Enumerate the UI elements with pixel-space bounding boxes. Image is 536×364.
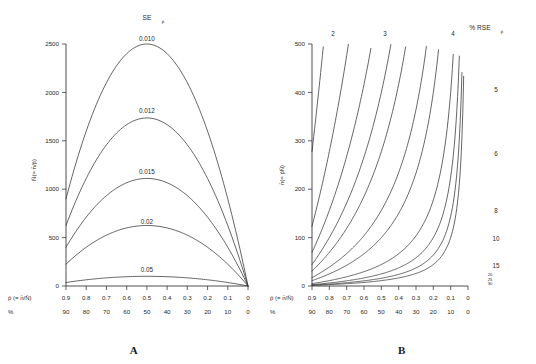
panel-a-xtick-8: 0.1 [223, 294, 232, 301]
panel-a-xtick-0: 0.9 [62, 294, 71, 301]
panel-b-xtickpct-6: 30 [413, 308, 420, 315]
figure-two-panel: SE p̄ 0 500 1000 1500 2000 2500 [0, 0, 536, 364]
panel-a-xtick-7: 0.2 [203, 294, 212, 301]
panel-b-line-label-8: 8 [494, 207, 498, 214]
panel-a-legend-title-sub: p̄ [162, 19, 165, 24]
panel-b-xtickpct-9: 0 [466, 308, 470, 315]
panel-a-ytick-1500: 1500 [45, 137, 59, 144]
panel-a-x-axis-title-pct: % [8, 309, 14, 315]
panel-a-curve-label-0: 0.010 [139, 35, 155, 42]
panel-a-xtick-6: 0.3 [183, 294, 192, 301]
panel-a-curve-0.012 [66, 118, 248, 286]
panel-a-xtick-1: 0.8 [82, 294, 91, 301]
panel-b-xtick-5: 0.4 [394, 294, 403, 301]
panel-a-xtickpct-2: 70 [103, 308, 110, 315]
panel-a-xtick-2: 0.7 [102, 294, 111, 301]
panel-b-ray-15 [312, 54, 453, 283]
panel-a-ytick-0: 0 [56, 282, 60, 289]
panel-b-xtick-3: 0.6 [360, 294, 369, 301]
panel-b-plot: % RSE p̄ 0 100 200 300 400 500 n̄(= p̄N̄… [268, 0, 536, 330]
panel-a-xtickpct-4: 50 [143, 308, 150, 315]
panel-b-ytick-300: 300 [295, 137, 306, 144]
panel-b-xtick-1: 0.8 [325, 294, 334, 301]
panel-b-line-label-3: 3 [383, 30, 387, 37]
panel-b-xtick-7: 0.2 [429, 294, 438, 301]
panel-a-curve-0.015 [66, 178, 248, 286]
panel-a-curves [66, 44, 248, 286]
panel-a-curve-label-3: 0.02 [141, 218, 154, 225]
panel-b-line-label-2: 2 [331, 30, 335, 37]
panel-b-rays [312, 44, 464, 285]
panel-b-line-label-5: 5 [494, 86, 498, 93]
panel-a-xtickpct-1: 80 [83, 308, 90, 315]
panel-a-xtickpct-9: 0 [246, 308, 250, 315]
panel-b-ray-4 [312, 48, 371, 252]
panel-b-xtickpct-2: 70 [343, 308, 350, 315]
panel-b-xtickpct-5: 40 [395, 308, 402, 315]
panel-a-ytick-2500: 2500 [45, 40, 59, 47]
panel-b-ray-8 [312, 47, 426, 278]
panel-a-curve-0.05 [66, 276, 248, 286]
panel-b-ray-30 [312, 76, 464, 285]
panel-b: % RSE p̄ 0 100 200 300 400 500 n̄(= p̄N̄… [268, 0, 536, 364]
panel-b-line-label-10: 10 [492, 235, 500, 242]
panel-a-xtick-3: 0.6 [122, 294, 131, 301]
panel-a: SE p̄ 0 500 1000 1500 2000 2500 [0, 0, 268, 364]
panel-a-xtick-5: 0.4 [163, 294, 172, 301]
panel-b-legend-title: % RSE [469, 24, 491, 31]
panel-a-plot: SE p̄ 0 500 1000 1500 2000 2500 [0, 0, 268, 330]
panel-b-ytick-200: 200 [295, 185, 306, 192]
panel-b-x-ticks: 0.9 0.8 0.7 0.6 0.5 0.4 0.3 0.2 0.1 0 90… [308, 286, 471, 315]
panel-a-xtickpct-3: 60 [123, 308, 130, 315]
panel-b-line-labels: 2 3 4 5 6 8 10 15 20 25 30 [331, 30, 500, 286]
panel-a-x-axis-title: p̄ (= n̄/N̄) [8, 295, 32, 301]
panel-a-xtick-9: 0 [246, 294, 250, 301]
panel-b-xtickpct-0: 90 [309, 308, 316, 315]
panel-b-xtick-2: 0.7 [342, 294, 351, 301]
panel-a-curve-label-1: 0.012 [139, 107, 155, 114]
panel-b-xtick-8: 0.1 [446, 294, 455, 301]
panel-a-ytick-1000: 1000 [45, 185, 59, 192]
panel-a-curve-label-4: 0.05 [141, 266, 154, 273]
panel-a-xtick-4: 0.5 [143, 294, 152, 301]
panel-b-ray-25 [312, 72, 462, 285]
panel-b-line-label-6: 6 [494, 150, 498, 157]
panel-b-xtickpct-8: 10 [447, 308, 454, 315]
panel-a-xtickpct-7: 20 [204, 308, 211, 315]
panel-a-ytick-2000: 2000 [45, 89, 59, 96]
panel-a-xtickpct-8: 10 [224, 308, 231, 315]
panel-a-xtickpct-5: 40 [164, 308, 171, 315]
panel-b-y-axis-title: n̄(= p̄N̄) [279, 165, 285, 185]
panel-b-ray-5 [312, 45, 391, 265]
panel-a-caption: A [0, 344, 268, 356]
panel-b-xtickpct-7: 20 [430, 308, 437, 315]
panel-a-curve-labels: 0.010 0.012 0.015 0.02 0.05 [139, 35, 155, 273]
panel-a-legend-title: SE [143, 14, 152, 21]
panel-b-xtick-0: 0.9 [308, 294, 317, 301]
panel-a-x-ticks: 0.9 0.8 0.7 0.6 0.5 0.4 0.3 0.2 0.1 0 90… [62, 286, 251, 315]
panel-b-ray-6 [312, 47, 406, 271]
panel-a-curve-0.02 [66, 226, 248, 287]
panel-b-ytick-0: 0 [302, 282, 306, 289]
panel-b-xtickpct-4: 50 [378, 308, 385, 315]
panel-b-ytick-100: 100 [295, 234, 306, 241]
panel-b-ray-2 [312, 47, 323, 152]
panel-b-xtick-4: 0.5 [377, 294, 386, 301]
panel-a-y-axis-title: N̄(= n̄/p̄) [31, 159, 37, 181]
panel-a-xtickpct-0: 90 [63, 308, 70, 315]
panel-b-y-ticks: 0 100 200 300 400 500 [295, 40, 312, 289]
panel-b-x-axis-title-pct: % [270, 309, 276, 315]
panel-b-xtickpct-1: 80 [326, 308, 333, 315]
panel-b-line-label-4: 4 [451, 30, 455, 37]
panel-b-xtick-9: 0 [466, 294, 470, 301]
panel-b-x-axis-title: p̄ (= n̄/N̄) [270, 295, 294, 301]
panel-b-legend-title-sub: p̄ [501, 29, 504, 34]
panel-b-ytick-400: 400 [295, 89, 306, 96]
panel-b-line-label-15: 15 [492, 262, 500, 269]
panel-b-xtick-6: 0.3 [412, 294, 421, 301]
panel-b-ytick-500: 500 [295, 40, 306, 47]
panel-b-ray-10 [312, 50, 439, 281]
panel-a-curve-label-2: 0.015 [139, 168, 155, 175]
panel-b-line-label-30: 30 [488, 281, 493, 286]
panel-a-xtickpct-6: 30 [184, 308, 191, 315]
